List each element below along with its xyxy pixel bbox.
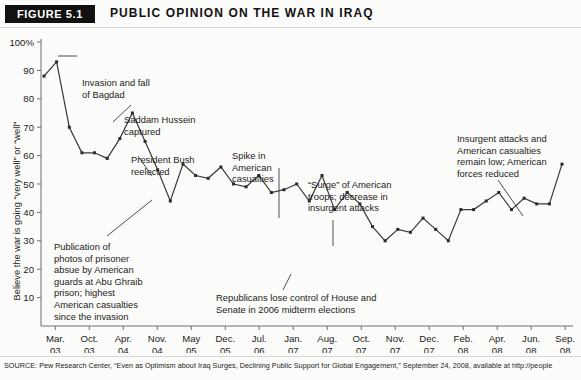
annotation-line: forces reduced	[457, 168, 547, 180]
data-point-marker	[245, 185, 248, 188]
y-tick-label: 10	[23, 292, 34, 303]
annotation-line: troops; decrease in	[308, 191, 391, 203]
annotation-line: American casualties	[54, 299, 143, 311]
annotation-line: of Bagdad	[82, 89, 150, 101]
x-tick-label-month: Jan.	[284, 333, 302, 344]
data-point-marker	[548, 202, 551, 205]
x-tick-label-month: Feb.	[454, 333, 473, 344]
data-point-marker	[459, 208, 462, 211]
data-point-marker	[384, 239, 387, 242]
data-point-marker	[497, 191, 500, 194]
y-tick-label: 100%	[9, 37, 34, 48]
y-tick-label: 70	[23, 122, 34, 133]
data-point-marker	[510, 208, 513, 211]
y-tick-label: 60	[23, 150, 34, 161]
data-point-marker	[321, 174, 324, 177]
data-point-marker	[434, 228, 437, 231]
annotation-line: guards at Abu Ghraib	[54, 276, 143, 288]
x-tick-label-month: Apr.	[115, 333, 132, 344]
x-tick-label-month: Sep.	[555, 333, 575, 344]
annotation-line: Insurgent attacks and	[457, 133, 547, 145]
y-tick-label: 90	[23, 65, 34, 76]
x-tick-label-year: 04	[152, 345, 163, 353]
x-tick-label-year: 08	[526, 345, 537, 353]
x-tick-label-month: Jul.	[252, 333, 267, 344]
annotation-bush-reelected: President Bushreelected	[131, 154, 195, 177]
annotation-line: insurgent attacks	[308, 202, 391, 214]
annotation-line: captured	[124, 126, 195, 138]
data-point-marker	[472, 208, 475, 211]
annotation-line: Saddam Hussein	[124, 114, 195, 126]
annotation-line: absue by American	[54, 264, 143, 276]
data-point-marker	[409, 231, 412, 234]
data-point-marker	[43, 75, 46, 78]
x-tick-label-month: Oct.	[352, 333, 370, 344]
x-tick-label-month: May	[182, 333, 200, 344]
x-tick-label-month: Dec.	[215, 333, 235, 344]
x-tick-label-year: 07	[356, 345, 367, 353]
annotation-line: casualties	[232, 173, 274, 185]
y-tick-label: 80	[23, 93, 34, 104]
x-tick-label-month: Aug.	[317, 333, 337, 344]
annotation-line: since the invasion	[54, 311, 143, 323]
chart-plot-area: 102030405060708090100% Mar.03Oct.03Apr.0…	[0, 28, 581, 353]
figure-root: FIGURE 5.1 PUBLIC OPINION ON THE WAR IN …	[0, 0, 581, 380]
data-point-marker	[207, 177, 210, 180]
data-point-marker	[561, 163, 564, 166]
data-point-marker	[295, 183, 298, 186]
x-tick-label-year: 08	[492, 345, 503, 353]
x-tick-label-year: 04	[118, 345, 129, 353]
data-point-marker	[422, 217, 425, 220]
x-tick-label-year: 07	[322, 345, 333, 353]
data-point-marker	[118, 137, 121, 140]
data-point-marker	[144, 140, 147, 143]
data-point-marker	[396, 228, 399, 231]
annotation-line: remain low; American	[457, 156, 547, 168]
x-tick-label-year: 03	[84, 345, 95, 353]
annotation-line: Republicans lose control of House and	[216, 292, 377, 304]
x-tick-label-month: Oct.	[80, 333, 98, 344]
data-point-marker	[55, 60, 58, 63]
source-note: SOURCE: Pew Research Center, “Even as Op…	[4, 361, 552, 370]
x-tick-label-month: Nov.	[148, 333, 167, 344]
annotation-republicans-lose-congress: Republicans lose control of House andSen…	[216, 292, 377, 315]
data-point-marker	[169, 200, 172, 203]
data-point-marker	[447, 239, 450, 242]
annotation-line: reelected	[131, 166, 195, 178]
y-tick-label: 40	[23, 207, 34, 218]
data-point-marker	[93, 151, 96, 154]
y-axis-label: Believe the war is going “very well” or …	[12, 86, 22, 336]
x-tick-label-year: 08	[458, 345, 469, 353]
x-axis-ticks: Mar.03Oct.03Apr.04Nov.04May05Dec.05Jul.0…	[46, 326, 575, 353]
annotation-abu-ghraib: Publication ofphotos of prisonerabsue by…	[54, 241, 143, 322]
annotation-line: photos of prisoner	[54, 253, 143, 265]
annotation-line: Invasion and fall	[82, 77, 150, 89]
data-point-marker	[371, 225, 374, 228]
annotation-line: Publication of	[54, 241, 143, 253]
x-tick-label-year: 05	[220, 345, 231, 353]
source-divider	[0, 356, 581, 357]
leader-line	[283, 274, 291, 290]
annotation-line: “Surge” of American	[308, 179, 391, 191]
annotation-invasion: Invasion and fallof Bagdad	[82, 77, 150, 100]
x-tick-label-year: 07	[424, 345, 435, 353]
annotation-line: prison; highest	[54, 287, 143, 299]
annotation-surge: “Surge” of Americantroops; decrease inin…	[308, 179, 391, 214]
data-point-marker	[270, 191, 273, 194]
x-tick-label-month: Jun.	[522, 333, 540, 344]
x-tick-label-year: 07	[288, 345, 299, 353]
figure-title: PUBLIC OPINION ON THE WAR IN IRAQ	[110, 6, 374, 20]
data-point-marker	[106, 157, 109, 160]
data-point-marker	[535, 202, 538, 205]
x-tick-label-month: Mar.	[46, 333, 65, 344]
y-tick-label: 30	[23, 235, 34, 246]
figure-number-badge: FIGURE 5.1	[5, 5, 95, 23]
y-tick-label: 50	[23, 179, 34, 190]
annotation-insurgent-attacks-low: Insurgent attacks andAmerican casualties…	[457, 133, 547, 179]
data-point-marker	[219, 166, 222, 169]
y-tick-label: 20	[23, 264, 34, 275]
data-point-marker	[523, 197, 526, 200]
leader-line	[107, 200, 152, 236]
x-tick-label-year: 05	[186, 345, 197, 353]
x-tick-label-month: Apr.	[489, 333, 506, 344]
